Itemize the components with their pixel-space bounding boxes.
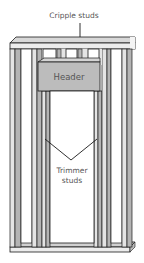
right-end-stud xyxy=(122,49,132,247)
right-king-stud xyxy=(102,49,111,247)
right-trimmer-stud xyxy=(94,91,102,247)
left-wall-cavity xyxy=(21,49,32,243)
bottom-plate xyxy=(10,242,135,252)
trimmer-label-line2: studs xyxy=(62,176,82,185)
left-trimmer-stud xyxy=(42,91,50,247)
door-framing-diagram: Cripple studs xyxy=(0,0,144,263)
right-wall-cavity xyxy=(111,49,122,243)
left-end-stud xyxy=(10,49,21,247)
top-plate xyxy=(10,37,135,49)
cripple-studs-label: Cripple studs xyxy=(49,11,98,20)
header-label: Header xyxy=(54,72,85,82)
trimmer-label-line1: Trimmer xyxy=(56,166,89,175)
